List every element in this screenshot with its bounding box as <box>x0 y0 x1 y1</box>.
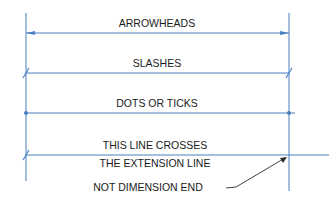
dot-left-icon <box>24 111 28 115</box>
dimension-terminators-diagram: ARROWHEADS SLASHES DOTS OR TICKS THIS LI… <box>0 0 331 208</box>
row-crossing: THIS LINE CROSSES THE EXTENSION LINE NOT… <box>23 139 329 193</box>
arrowhead-left-icon <box>26 31 35 35</box>
arrowhead-right-icon <box>280 31 289 35</box>
label-this-line-crosses: THIS LINE CROSSES <box>103 139 207 151</box>
label-slashes: SLASHES <box>133 57 181 69</box>
row-arrowheads: ARROWHEADS <box>26 17 289 35</box>
row-dots: DOTS OR TICKS <box>24 97 295 115</box>
label-extension-line: THE EXTENSION LINE <box>100 157 211 169</box>
label-dots-or-ticks: DOTS OR TICKS <box>116 97 197 109</box>
row-slashes: SLASHES <box>23 57 292 78</box>
dot-right-icon <box>287 111 291 115</box>
label-arrowheads: ARROWHEADS <box>119 17 195 29</box>
leader-line <box>226 158 285 188</box>
label-not-dimension-end: NOT DIMENSION END <box>93 181 203 193</box>
